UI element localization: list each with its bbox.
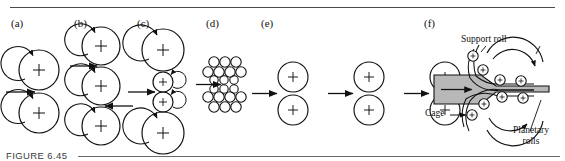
- roll-center-cross: [33, 107, 45, 119]
- diagram-drawing-layer: [0, 0, 565, 161]
- panel-c-drawing: [123, 25, 186, 154]
- figure-container: (a) (b) (c) (d) (e) (f): [0, 0, 565, 161]
- panel-a-drawing: [1, 47, 59, 133]
- rotation-arrow-a-bottom: [1, 90, 33, 124]
- cluster-work-roll: [230, 76, 238, 84]
- rotation-arrow-c-backup-bottom: [123, 108, 157, 144]
- cluster-work-roll: [220, 76, 228, 84]
- cluster-roll: [209, 57, 219, 67]
- cluster-roll: [220, 57, 230, 67]
- support-roll-top-rotation: [493, 49, 535, 66]
- cage-label: Cage: [425, 109, 445, 119]
- cluster-roll: [214, 92, 224, 102]
- rotation-arrow-a-top: [1, 47, 33, 81]
- rotation-arrow-b-top: [65, 24, 95, 56]
- figure-caption-label: FIGURE 6.45: [6, 150, 67, 161]
- caption-divider-rule: [78, 156, 560, 157]
- cluster-roll: [225, 92, 235, 102]
- cluster-roll: [203, 67, 213, 77]
- roll-center-cross: [33, 64, 45, 76]
- cluster-roll: [236, 92, 246, 102]
- cluster-roll: [209, 102, 219, 112]
- cluster-roll: [236, 67, 246, 77]
- planetary-rolls-label-line1: Planetary: [503, 126, 559, 136]
- cluster-roll: [203, 92, 213, 102]
- rotation-arrow-b-middle: [65, 64, 95, 96]
- cluster-roll: [231, 102, 241, 112]
- planetary-rolls-label-line2: rolls: [503, 137, 559, 147]
- cluster-roll: [231, 57, 241, 67]
- cluster-roll: [220, 102, 230, 112]
- rotation-arrow-b-bottom: [65, 104, 95, 136]
- support-roll-leader-left: [481, 46, 486, 52]
- support-roll-label: Support roll: [461, 35, 507, 45]
- panel-d-drawing: [196, 57, 246, 112]
- rotation-arrow-c-backup-top: [123, 25, 157, 61]
- cluster-work-roll: [210, 76, 218, 84]
